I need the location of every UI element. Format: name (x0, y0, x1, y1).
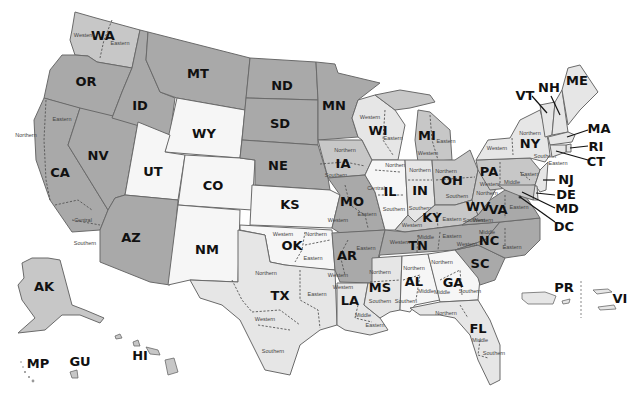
state-label-ia: IA (336, 156, 351, 171)
svg-text:Eastern: Eastern (443, 233, 462, 239)
state-label-id: ID (132, 98, 148, 113)
state-mp[interactable]: MP (20, 356, 49, 382)
state-label-ri: RI (589, 139, 604, 154)
svg-text:Central: Central (367, 185, 385, 191)
us-judicial-districts-map: WA Western Eastern OR CA Northern Easter… (0, 0, 636, 396)
svg-text:Northern: Northern (409, 167, 430, 173)
svg-text:Northern: Northern (385, 162, 406, 168)
state-label-oh: OH (441, 173, 463, 188)
state-label-co: CO (203, 178, 224, 193)
svg-text:Southern: Southern (74, 240, 96, 246)
svg-text:Middle: Middle (472, 337, 488, 343)
state-az[interactable]: AZ (100, 195, 178, 285)
state-pr[interactable]: PR (522, 280, 574, 304)
svg-text:Middle: Middle (479, 229, 495, 235)
state-label-dc: DC (554, 219, 574, 234)
state-label-mi: MI (418, 128, 436, 143)
svg-text:Middle: Middle (418, 234, 434, 240)
svg-text:Western: Western (402, 222, 422, 228)
state-label-pr: PR (554, 280, 574, 295)
state-ia[interactable]: IA Northern Southern (318, 140, 372, 178)
state-label-nv: NV (88, 148, 109, 163)
state-label-ct: CT (587, 154, 606, 169)
svg-text:Northern: Northern (431, 259, 452, 265)
state-label-ky: KY (422, 210, 442, 225)
state-hi[interactable]: HI (115, 334, 178, 375)
state-label-me: ME (566, 73, 588, 88)
svg-text:Eastern: Eastern (53, 116, 72, 122)
state-label-mn: MN (322, 98, 346, 113)
state-label-tn: TN (408, 238, 428, 253)
svg-text:Southern: Southern (483, 350, 505, 356)
svg-text:Western: Western (480, 181, 500, 187)
state-label-va: VA (488, 202, 507, 217)
svg-text:Middle: Middle (355, 312, 371, 318)
svg-text:Northern: Northern (519, 130, 540, 136)
state-sd[interactable]: SD (242, 98, 318, 145)
svg-text:Eastern: Eastern (111, 40, 130, 46)
state-label-ny: NY (520, 136, 541, 151)
svg-text:Eastern: Eastern (357, 245, 376, 251)
svg-text:Southern: Southern (262, 348, 284, 354)
state-label-gu: GU (69, 354, 90, 369)
state-label-in: IN (412, 183, 428, 198)
state-ks[interactable]: KS (250, 185, 340, 228)
state-co[interactable]: CO (178, 155, 255, 210)
state-vi[interactable]: VI (593, 289, 627, 310)
state-fl[interactable]: FL Northern Middle Southern (410, 300, 505, 385)
state-label-mp: MP (27, 356, 49, 371)
svg-text:Eastern: Eastern (384, 135, 403, 141)
svg-text:Southern: Southern (463, 217, 485, 223)
svg-text:Eastern: Eastern (510, 204, 529, 210)
svg-text:Southern: Southern (459, 288, 481, 294)
state-gu[interactable]: GU (69, 354, 90, 378)
svg-text:Southern: Southern (395, 298, 417, 304)
svg-text:Northern: Northern (369, 269, 390, 275)
svg-text:Western: Western (418, 150, 438, 156)
state-label-sd: SD (270, 116, 290, 131)
svg-text:Western: Western (273, 231, 293, 237)
state-label-nm: NM (195, 242, 219, 257)
state-label-or: OR (75, 74, 96, 89)
state-label-ca: CA (50, 165, 70, 180)
svg-text:Eastern: Eastern (304, 255, 323, 261)
state-label-mo: MO (340, 194, 364, 209)
svg-text:Northern: Northern (334, 147, 355, 153)
state-label-az: AZ (121, 230, 141, 245)
state-label-vi: VI (613, 291, 628, 306)
state-me[interactable]: ME (562, 65, 598, 125)
svg-text:Western: Western (328, 217, 348, 223)
state-label-vt: VT (516, 88, 535, 103)
state-nd[interactable]: ND (246, 58, 318, 100)
state-ak[interactable]: AK (18, 258, 104, 333)
state-label-ma: MA (588, 121, 611, 136)
svg-text:Eastern: Eastern (366, 322, 385, 328)
state-label-ar: AR (337, 248, 357, 263)
svg-text:Eastern: Eastern (437, 138, 456, 144)
state-label-fl: FL (469, 321, 486, 336)
svg-text:Western: Western (457, 241, 477, 247)
state-label-de: DE (556, 187, 576, 202)
state-label-ne: NE (268, 158, 288, 173)
svg-text:Eastern: Eastern (358, 211, 377, 217)
state-label-ms: MS (369, 280, 391, 295)
state-label-nd: ND (271, 78, 293, 93)
state-label-ks: KS (280, 197, 299, 212)
state-label-nj: NJ (558, 172, 574, 187)
svg-text:Western: Western (255, 316, 275, 322)
svg-text:Southern: Southern (369, 298, 391, 304)
svg-text:Western: Western (487, 145, 507, 151)
state-nm[interactable]: NM (168, 205, 240, 285)
svg-text:Western: Western (328, 272, 348, 278)
svg-text:Eastern: Eastern (549, 160, 568, 166)
state-label-il: IL (383, 184, 396, 199)
svg-text:Eastern: Eastern (503, 244, 522, 250)
svg-text:Northern: Northern (476, 190, 497, 196)
svg-text:Northern: Northern (305, 231, 326, 237)
svg-text:Northern: Northern (435, 168, 456, 174)
svg-text:Central: Central (74, 217, 92, 223)
state-label-hi: HI (132, 348, 148, 363)
svg-text:Western: Western (74, 32, 94, 38)
state-label-sc: SC (471, 256, 490, 271)
svg-text:Northern: Northern (403, 265, 424, 271)
